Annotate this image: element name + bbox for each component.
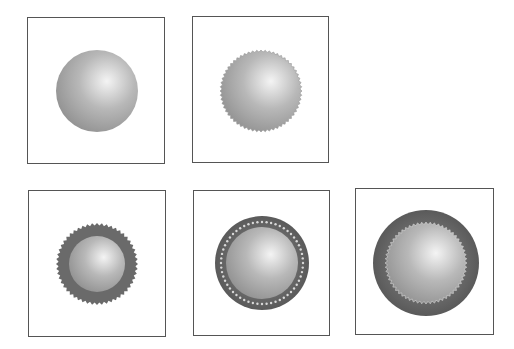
ring-dot bbox=[220, 262, 222, 264]
ring-dot bbox=[302, 262, 304, 264]
ring-dot bbox=[302, 266, 304, 268]
ring-dot bbox=[290, 291, 292, 293]
ring-dot bbox=[226, 240, 228, 242]
ring-dot bbox=[274, 301, 276, 303]
panel-serrated-ring-small-core bbox=[28, 190, 166, 337]
ring-dot bbox=[290, 233, 292, 235]
ring-dot bbox=[232, 233, 234, 235]
ring-dot bbox=[224, 280, 226, 282]
ring-dot bbox=[235, 294, 237, 296]
ring-dot bbox=[222, 275, 224, 277]
ring-dot bbox=[286, 230, 288, 232]
ring-dot bbox=[298, 244, 300, 246]
ring-dot bbox=[293, 287, 295, 289]
sphere-graphic bbox=[29, 191, 167, 338]
sphere-graphic bbox=[28, 18, 166, 165]
ring-dot bbox=[239, 297, 241, 299]
ring-dot bbox=[301, 253, 303, 255]
ring-dot bbox=[256, 221, 258, 223]
ring-dot bbox=[220, 257, 222, 259]
ring-dot bbox=[265, 221, 267, 223]
ring-dot bbox=[279, 225, 281, 227]
ring-dot bbox=[235, 230, 237, 232]
ring-dot bbox=[252, 302, 254, 304]
ring-dot bbox=[243, 299, 245, 301]
ring-dot bbox=[293, 236, 295, 238]
ring-dot bbox=[247, 223, 249, 225]
sphere-graphic bbox=[193, 17, 330, 164]
panel-dotted-ring-sphere bbox=[193, 190, 330, 336]
sphere-graphic bbox=[194, 191, 331, 337]
ring-dot bbox=[256, 303, 258, 305]
ring-dot bbox=[270, 222, 272, 224]
inner-sphere bbox=[69, 236, 125, 292]
ring-dot bbox=[296, 284, 298, 286]
inner-sphere bbox=[226, 227, 298, 299]
ring-dot bbox=[286, 294, 288, 296]
ring-dot bbox=[243, 225, 245, 227]
ring-dot bbox=[247, 301, 249, 303]
ring-dot bbox=[283, 227, 285, 229]
sphere-graphic bbox=[356, 189, 495, 336]
panel-smooth-ring-serrated-core bbox=[355, 188, 494, 335]
ring-dot bbox=[229, 287, 231, 289]
ring-dot bbox=[300, 275, 302, 277]
ring-dot bbox=[232, 291, 234, 293]
ring-dot bbox=[279, 299, 281, 301]
ring-dot bbox=[283, 297, 285, 299]
ring-dot bbox=[221, 253, 223, 255]
ring-dot bbox=[239, 227, 241, 229]
ring-dot bbox=[224, 244, 226, 246]
ring-dot bbox=[296, 240, 298, 242]
ring-dot bbox=[221, 271, 223, 273]
ring-dot bbox=[270, 302, 272, 304]
ring-dot bbox=[301, 271, 303, 273]
ring-dot bbox=[302, 257, 304, 259]
ring-dot bbox=[222, 248, 224, 250]
ring-dot bbox=[265, 303, 267, 305]
ring-dot bbox=[226, 284, 228, 286]
ring-dot bbox=[274, 223, 276, 225]
ring-dot bbox=[300, 248, 302, 250]
ring-dot bbox=[252, 222, 254, 224]
serrated-sphere bbox=[220, 50, 302, 132]
panel-serrated-sphere bbox=[192, 16, 329, 163]
ring-dot bbox=[261, 221, 263, 223]
sphere bbox=[56, 50, 138, 132]
panel-plain-sphere bbox=[27, 17, 165, 164]
ring-dot bbox=[220, 266, 222, 268]
ring-dot bbox=[229, 236, 231, 238]
ring-dot bbox=[261, 303, 263, 305]
ring-dot bbox=[298, 280, 300, 282]
